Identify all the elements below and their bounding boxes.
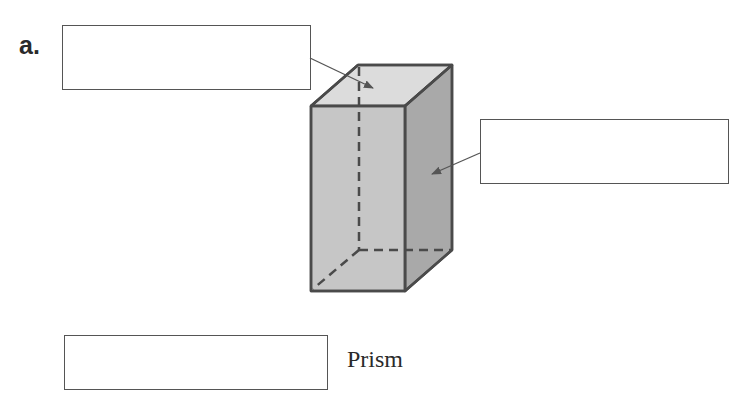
rectangular-prism-figure [0,0,744,410]
